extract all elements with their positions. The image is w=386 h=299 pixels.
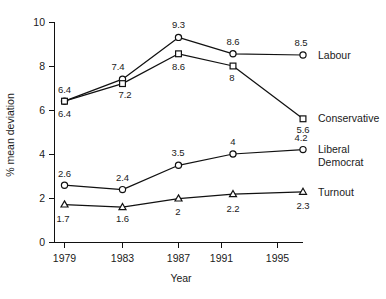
data-label: 7.4 [111, 61, 124, 72]
legend-label-turnout: Turnout [318, 186, 354, 198]
data-point-marker [230, 63, 236, 69]
data-point-marker [300, 147, 306, 153]
data-point-marker [300, 188, 307, 194]
data-label: 2.4 [116, 172, 129, 183]
data-point-marker [300, 116, 306, 122]
data-label: 2.6 [58, 168, 71, 179]
data-label: 4 [230, 136, 235, 147]
data-point-marker [300, 52, 306, 58]
data-point-marker [119, 187, 125, 193]
data-label: 8.5 [294, 37, 307, 48]
y-tick-label-6: 6 [39, 104, 45, 116]
y-axis-title: % mean deviation [4, 93, 16, 177]
y-axis [49, 22, 55, 243]
data-label: 1.6 [116, 213, 129, 224]
data-point-marker [230, 51, 236, 57]
series-turnout: 1.7 1.6 2 2.2 2.3 [56, 188, 309, 224]
y-tick-label-8: 8 [39, 60, 45, 72]
y-tick-label-4: 4 [39, 148, 45, 160]
x-tick-label-1979: 1979 [53, 252, 77, 264]
data-label: 3.5 [171, 147, 184, 158]
data-label: 6.4 [58, 84, 71, 95]
data-point-marker [120, 81, 126, 87]
data-point-marker [230, 151, 236, 157]
x-tick-label-1991: 1991 [210, 252, 234, 264]
data-label: 6.4 [58, 108, 71, 119]
series-turnout-line [65, 192, 304, 207]
data-label: 8.6 [172, 61, 185, 72]
y-tick-label-2: 2 [39, 192, 45, 204]
y-tick-label-10: 10 [33, 16, 45, 28]
data-label: 2 [175, 206, 180, 217]
data-point-marker [62, 98, 68, 104]
data-point-marker [175, 162, 181, 168]
data-point-marker [61, 201, 68, 207]
series-liberal-democrat: 2.6 2.4 3.5 4 4.2 [58, 132, 308, 193]
data-label: 4.2 [294, 132, 307, 143]
data-label: 9.3 [172, 19, 185, 30]
legend-label-liberal-democrat-line1: Liberal [318, 143, 350, 155]
chart-canvas: 10 8 6 4 2 0 1979 1983 1987 1991 1995 Ye… [0, 0, 386, 299]
x-tick-label-1983: 1983 [111, 252, 135, 264]
legend-label-labour: Labour [318, 49, 351, 61]
data-point-marker [175, 34, 181, 40]
x-axis [55, 243, 304, 249]
legend-label-liberal-democrat-line2: Democrat [318, 156, 364, 168]
data-label: 1.7 [56, 213, 69, 224]
legend-label-conservative: Conservative [318, 112, 379, 124]
data-label: 2.2 [226, 203, 239, 214]
data-label: 7.2 [118, 89, 131, 100]
series-conservative: 6.4 7.2 8.6 8 5.6 [58, 51, 310, 135]
data-label: 2.3 [296, 200, 309, 211]
x-axis-title: Year [170, 272, 192, 284]
y-tick-label-0: 0 [39, 236, 45, 248]
data-label: 8 [229, 72, 234, 83]
data-point-marker [61, 182, 67, 188]
data-point-marker [176, 51, 182, 57]
data-label: 8.6 [226, 36, 239, 47]
x-tick-label-1995: 1995 [266, 252, 290, 264]
x-tick-label-1987: 1987 [167, 252, 191, 264]
line-chart: 10 8 6 4 2 0 1979 1983 1987 1991 1995 Ye… [0, 0, 386, 299]
chart-legend: Labour Conservative Liberal Democrat Tur… [318, 49, 379, 198]
